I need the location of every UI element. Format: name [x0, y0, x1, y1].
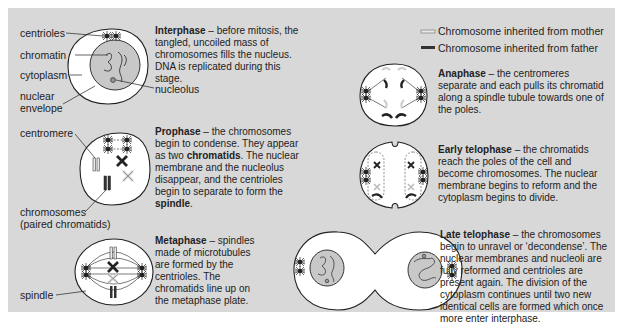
prophase-title: Prophase [155, 126, 201, 137]
anaphase-description: Anaphase – the centromeres separate and … [438, 68, 608, 116]
interphase-description: Interphase – before mitosis, the tangled… [155, 25, 305, 85]
label-chromatin: chromatin [20, 49, 66, 61]
label-chromosomes-1: chromosomes [20, 206, 86, 218]
late-telophase-description: Late telophase – the chromosomes begin t… [440, 229, 612, 325]
late-telophase-title: Late telophase [440, 229, 510, 240]
prophase-cell [75, 133, 150, 212]
anaphase-cell [360, 64, 427, 126]
early-telophase-cell [360, 142, 428, 208]
label-centromere: centromere [20, 127, 73, 139]
metaphase-description: Metaphase – spindles made of microtubule… [155, 235, 265, 307]
father-swatch-icon [421, 46, 435, 49]
label-nuclear-envelope-2: envelope [20, 102, 63, 114]
interphase-cell [63, 29, 154, 104]
legend-father: Chromosome inherited from father [438, 42, 598, 54]
metaphase-cell [56, 239, 153, 305]
label-nuclear-envelope-1: nuclear [20, 90, 54, 102]
label-centrioles: centrioles [20, 27, 65, 39]
legend-mother: Chromosome inherited from mother [438, 25, 604, 37]
early-telophase-description: Early telophase – the chromatids reach t… [438, 144, 598, 204]
label-chromosomes-2: (paired chromatids) [20, 218, 110, 230]
mother-swatch-icon [421, 30, 435, 33]
metaphase-title: Metaphase [155, 235, 207, 246]
late-telophase-cell [294, 232, 462, 310]
label-spindle: spindle [20, 289, 53, 301]
early-telophase-title: Early telophase [438, 144, 512, 155]
anaphase-title: Anaphase [438, 68, 486, 79]
prophase-description: Prophase – the chromosomes begin to cond… [155, 126, 305, 210]
interphase-title: Interphase [155, 25, 206, 36]
label-cytoplasm: cytoplasm [20, 69, 67, 81]
